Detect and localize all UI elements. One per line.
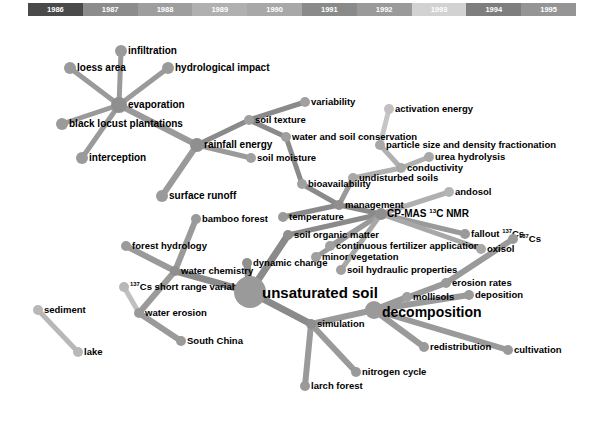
graph-node-label: water erosion <box>145 308 207 318</box>
graph-node[interactable] <box>156 190 168 202</box>
graph-node-label: rainfall energy <box>204 140 272 150</box>
graph-node[interactable] <box>119 282 129 292</box>
graph-node-label: lake <box>84 347 103 357</box>
graph-node[interactable] <box>365 301 383 319</box>
graph-node[interactable] <box>460 229 470 239</box>
graph-node-label: bamboo forest <box>202 214 268 224</box>
graph-node-label: particle size and density fractionation <box>386 140 556 150</box>
graph-node-label: soil organic matter <box>294 230 379 240</box>
graph-node[interactable] <box>162 62 174 74</box>
graph-node-label: surface runoff <box>169 191 236 201</box>
graph-node-label: black locust plantations <box>69 119 183 129</box>
graph-node-label: forest hydrology <box>132 241 207 251</box>
graph-node-label: decomposition <box>382 305 482 319</box>
graph-node-label: bioavailability <box>308 179 371 189</box>
graph-node-label: water chemistry <box>181 266 253 276</box>
graph-node-label: unsaturated soil <box>262 285 378 300</box>
graph-node[interactable] <box>306 319 316 329</box>
graph-node[interactable] <box>325 241 335 251</box>
graph-node[interactable] <box>419 342 429 352</box>
graph-node[interactable] <box>56 118 68 130</box>
graph-node[interactable] <box>351 367 361 377</box>
graph-node-label: nitrogen cycle <box>362 367 426 377</box>
graph-node[interactable] <box>246 153 256 163</box>
graph-node[interactable] <box>464 290 474 300</box>
graph-node[interactable] <box>297 179 307 189</box>
graph-node-label: cultivation <box>514 345 562 355</box>
graph-node-label: infiltration <box>128 46 177 56</box>
graph-node[interactable] <box>176 336 186 346</box>
graph-node[interactable] <box>283 230 293 240</box>
graph-node-label: oxisol <box>487 244 514 254</box>
graph-node[interactable] <box>111 97 127 113</box>
graph-node[interactable] <box>311 252 321 262</box>
graph-node-label: hydrological impact <box>175 63 269 73</box>
graph-node-label: continuous fertilizer application <box>336 241 480 251</box>
graph-node-label: CP-MAS 13C NMR <box>387 209 469 219</box>
graph-node[interactable] <box>281 132 291 142</box>
graph-node-label: soil moisture <box>257 153 316 163</box>
figure-canvas: 1986198719881989199019911992199319941995… <box>0 0 604 444</box>
graph-node[interactable] <box>134 308 144 318</box>
graph-node-label: urea hydrolysis <box>435 152 505 162</box>
graph-node-label: 137Cs <box>519 234 541 244</box>
graph-node[interactable] <box>336 265 346 275</box>
graph-node-label: activation energy <box>395 104 473 114</box>
graph-node-label: deposition <box>475 290 523 300</box>
graph-node-label: mollisols <box>413 292 454 302</box>
graph-node[interactable] <box>73 347 83 357</box>
graph-node[interactable] <box>170 266 180 276</box>
graph-node[interactable] <box>402 292 412 302</box>
graph-nodes: infiltrationloess areahydrological impac… <box>0 0 604 444</box>
network-graph: infiltrationloess areahydrological impac… <box>0 0 604 444</box>
graph-node[interactable] <box>190 138 204 152</box>
graph-node[interactable] <box>121 241 131 251</box>
graph-node[interactable] <box>300 381 310 391</box>
graph-node[interactable] <box>33 305 43 315</box>
graph-node[interactable] <box>384 104 394 114</box>
graph-node-label: larch forest <box>311 381 363 391</box>
graph-node[interactable] <box>424 152 434 162</box>
graph-node-label: simulation <box>317 319 365 329</box>
graph-node-label: minor vegetation <box>322 252 399 262</box>
graph-node[interactable] <box>334 200 344 210</box>
graph-node-label: redistribution <box>430 342 491 352</box>
graph-node[interactable] <box>375 140 385 150</box>
graph-node-label: soil texture <box>255 115 306 125</box>
graph-node[interactable] <box>76 152 88 164</box>
graph-node[interactable] <box>375 208 387 220</box>
graph-node[interactable] <box>441 278 451 288</box>
graph-node[interactable] <box>503 345 513 355</box>
graph-node[interactable] <box>191 214 201 224</box>
graph-node-label: variability <box>311 97 355 107</box>
graph-node[interactable] <box>476 244 486 254</box>
graph-node-label: sediment <box>44 305 86 315</box>
graph-node[interactable] <box>115 45 127 57</box>
graph-node[interactable] <box>300 97 310 107</box>
graph-node-label: temperature <box>289 212 344 222</box>
graph-node[interactable] <box>244 115 254 125</box>
graph-node[interactable] <box>278 212 288 222</box>
graph-node[interactable] <box>64 62 76 74</box>
graph-node-label: soil hydraulic properties <box>347 265 457 275</box>
graph-node-label: evaporation <box>128 100 185 110</box>
graph-node-label: South China <box>187 336 243 346</box>
graph-node-label: andosol <box>455 187 491 197</box>
graph-node-label: interception <box>89 153 146 163</box>
graph-node-label: loess area <box>77 63 126 73</box>
graph-node-label: erosion rates <box>452 278 512 288</box>
graph-node[interactable] <box>444 187 454 197</box>
